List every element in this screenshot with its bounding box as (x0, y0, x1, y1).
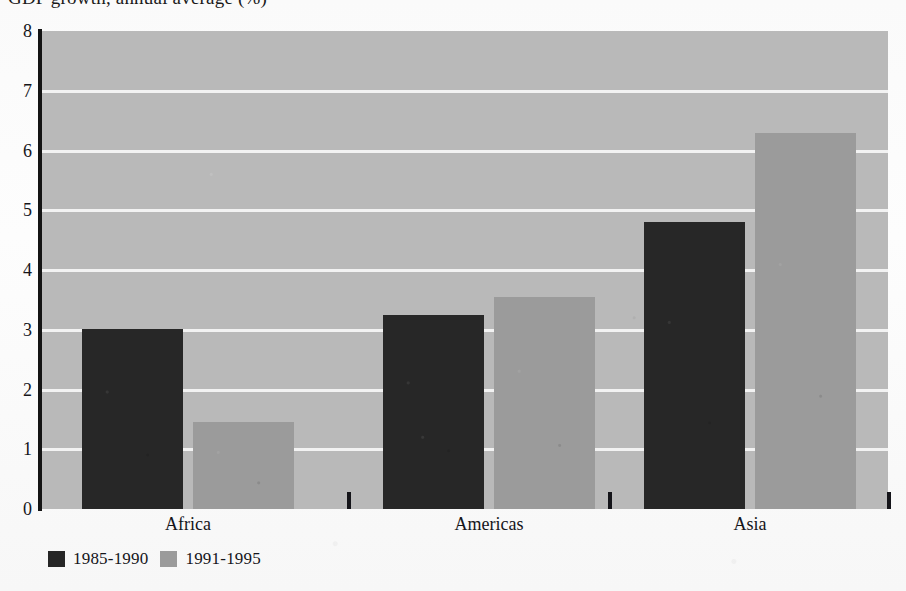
x-axis-category-label: Africa (165, 514, 211, 535)
y-axis-tick-label: 7 (6, 82, 32, 100)
bar (644, 222, 745, 509)
chart-title: GDP growth, annual average (%) (8, 0, 528, 9)
y-axis-tick-label: 4 (6, 261, 32, 279)
legend-label: 1985-1990 (73, 549, 148, 569)
y-axis-tick-label: 6 (6, 142, 32, 160)
y-axis-tick-label: 0 (6, 500, 32, 518)
legend-item-0: 1985-1990 (48, 549, 148, 569)
x-axis-category-label: Americas (455, 514, 524, 535)
y-axis-tick-label: 3 (6, 321, 32, 339)
legend-item-1: 1991-1995 (160, 549, 260, 569)
y-axis-tick-label: 5 (6, 201, 32, 219)
bar (193, 422, 294, 509)
bar (82, 329, 183, 509)
legend-swatch-icon (160, 551, 177, 567)
legend-swatch-icon (48, 551, 65, 567)
x-axis-tick (887, 492, 891, 509)
bar (494, 297, 595, 509)
bar (383, 315, 484, 509)
plot-area (42, 31, 888, 509)
bar (755, 133, 856, 509)
x-axis-tick (347, 492, 351, 509)
x-axis-category-label: Asia (734, 514, 767, 535)
gridline (42, 90, 888, 93)
x-axis-tick (608, 492, 612, 509)
chart-legend: 1985-1990 1991-1995 (48, 549, 261, 569)
y-axis-tick-label: 1 (6, 440, 32, 458)
y-axis-tick-label: 8 (6, 22, 32, 40)
y-axis-tick-label: 2 (6, 381, 32, 399)
legend-label: 1991-1995 (185, 549, 260, 569)
